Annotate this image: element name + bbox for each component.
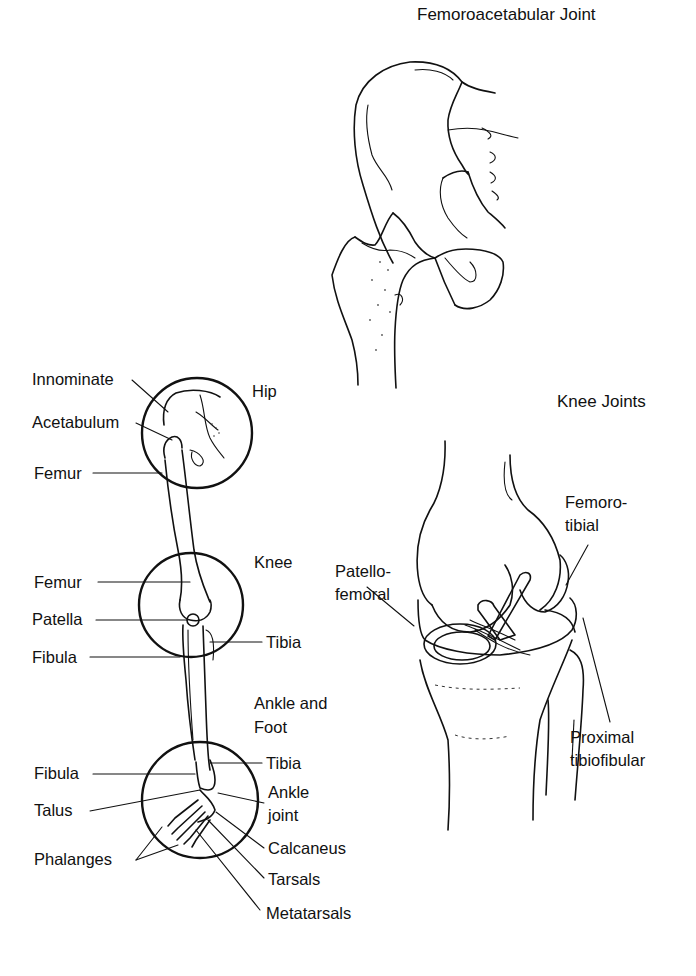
title-knee-joints: Knee Joints	[557, 392, 646, 411]
label-ankle-joint-2: joint	[268, 806, 298, 825]
label-ankle-joint-1: Ankle	[268, 783, 309, 802]
label-proximal-tibiofibular-1: Proximal	[570, 728, 634, 747]
label-femur-knee: Femur	[34, 573, 82, 592]
label-region-ankle-foot-1: Ankle and	[254, 694, 327, 713]
label-tarsals: Tarsals	[268, 870, 320, 889]
label-patella: Patella	[32, 610, 82, 629]
label-patellofemoral-2: femoral	[335, 585, 390, 604]
label-innominate: Innominate	[32, 370, 114, 389]
label-acetabulum: Acetabulum	[32, 413, 119, 432]
knee-joint-drawing	[417, 441, 583, 830]
anatomy-illustration	[0, 0, 696, 976]
label-metatarsals: Metatarsals	[266, 904, 351, 923]
label-femur-hip: Femur	[34, 464, 82, 483]
label-phalanges: Phalanges	[34, 850, 112, 869]
hip-circle	[142, 378, 252, 488]
title-femoroacetabular-joint: Femoroacetabular Joint	[417, 5, 596, 24]
label-patellofemoral-1: Patello-	[335, 562, 391, 581]
label-proximal-tibiofibular-2: tibiofibular	[570, 751, 645, 770]
knee-circle	[139, 553, 243, 657]
label-talus: Talus	[34, 801, 73, 820]
label-region-hip: Hip	[252, 382, 277, 401]
ankle-circle	[142, 742, 258, 858]
label-calcaneus: Calcaneus	[268, 839, 346, 858]
hip-joint-drawing	[332, 62, 518, 388]
label-fibula-knee: Fibula	[32, 648, 77, 667]
label-region-ankle-foot-2: Foot	[254, 718, 287, 737]
leg-skeleton-drawing	[139, 378, 258, 858]
label-tibia-ankle: Tibia	[266, 754, 301, 773]
label-femorotibial-1: Femoro-	[565, 493, 627, 512]
leader-lines	[90, 380, 610, 910]
label-tibia-knee: Tibia	[266, 633, 301, 652]
label-fibula-ankle: Fibula	[34, 764, 79, 783]
label-femorotibial-2: tibial	[565, 516, 599, 535]
label-region-knee: Knee	[254, 553, 293, 572]
